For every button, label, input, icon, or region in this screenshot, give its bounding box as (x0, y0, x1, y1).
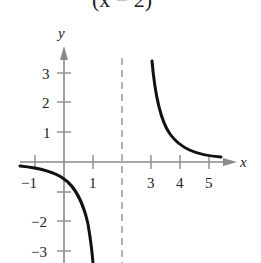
y-axis-arrow-icon (60, 46, 68, 60)
y-tick-label: 1 (43, 125, 51, 141)
x-tick-label: 4 (176, 175, 184, 191)
x-tick-label: 3 (147, 175, 155, 191)
formula-fragment: (x − 2) (92, 0, 152, 12)
function-graph: (x − 2) y 3 2 1 −2 −3 x −1 1 3 4 5 (0, 0, 261, 263)
y-axis-label: y (56, 25, 65, 41)
curve-right-branch (152, 61, 221, 157)
x-tick-label: 5 (205, 175, 213, 191)
y-axis: y 3 2 1 −2 −3 (31, 25, 71, 263)
x-tick-label: 1 (89, 175, 97, 191)
y-tick-label: −2 (31, 214, 47, 230)
y-tick-label: 3 (42, 66, 50, 82)
x-axis-arrow-icon (223, 158, 237, 166)
x-tick-label: −1 (21, 175, 37, 191)
x-axis-label: x (239, 154, 247, 170)
y-tick-label: 2 (42, 95, 50, 111)
y-tick-label: −3 (31, 244, 47, 260)
